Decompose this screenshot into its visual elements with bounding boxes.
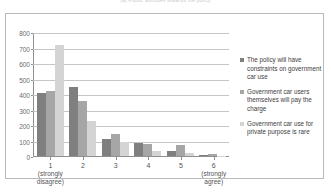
legend-item[interactable]: Government car users themselves will pay… — [240, 88, 330, 114]
y-axis-tick-label: 0 — [26, 154, 30, 161]
x-axis-tick-mark — [148, 157, 149, 160]
bar-group — [34, 33, 67, 156]
bar[interactable] — [167, 151, 176, 156]
y-axis-tick-label: 300 — [19, 107, 30, 114]
bar[interactable] — [208, 154, 217, 156]
legend-swatch-icon — [240, 122, 244, 126]
x-axis-tick-sublabel: (strongly — [34, 170, 67, 178]
bar[interactable] — [102, 139, 111, 156]
x-axis-tick-labels: 1(stronglydisagree)23456(stronglyagree) — [34, 157, 230, 186]
x-axis-tick-number: 1 — [34, 161, 67, 170]
x-axis-tick-number: 6 — [197, 161, 230, 170]
y-axis-tick-label: 800 — [19, 30, 30, 37]
chart-frame: 0100200300400500600700800 1(stronglydisa… — [5, 13, 324, 179]
x-axis-tick-mark — [50, 157, 51, 160]
legend-item-label: Government car use for private purpose i… — [247, 120, 330, 137]
x-axis-tick-sublabel: agree) — [197, 178, 230, 186]
x-axis-tick: 3 — [99, 157, 132, 186]
legend-swatch-icon — [240, 90, 244, 94]
bar[interactable] — [87, 121, 96, 156]
bar[interactable] — [134, 143, 143, 156]
legend-item[interactable]: The policy will have constraints on gove… — [240, 56, 330, 82]
x-axis-tick: 5 — [165, 157, 198, 186]
y-axis-tick-label: 500 — [19, 76, 30, 83]
x-axis-tick-mark — [83, 157, 84, 160]
chart-legend: The policy will have constraints on gove… — [240, 56, 330, 143]
bar[interactable] — [37, 93, 46, 156]
x-axis-tick-mark — [116, 157, 117, 160]
y-axis-tick-label: 700 — [19, 45, 30, 52]
bar[interactable] — [55, 45, 64, 156]
bar[interactable] — [176, 145, 185, 156]
chart-title: (a) Public attitudes towards the policy — [0, 0, 331, 4]
plot-area: 0100200300400500600700800 — [33, 33, 229, 157]
y-axis-tick-label: 100 — [19, 138, 30, 145]
y-axis-tick-label: 400 — [19, 92, 30, 99]
x-axis-tick: 1(stronglydisagree) — [34, 157, 67, 186]
y-axis-tick-label: 200 — [19, 123, 30, 130]
bar-group — [99, 33, 132, 156]
y-axis-tick-mark — [31, 64, 33, 65]
x-axis-tick-number: 4 — [132, 161, 165, 170]
bar[interactable] — [69, 87, 78, 156]
bar[interactable] — [152, 151, 161, 156]
x-axis-tick-number: 3 — [99, 161, 132, 170]
legend-item-label: Government car users themselves will pay… — [247, 88, 330, 114]
y-axis-tick-mark — [31, 111, 33, 112]
x-axis-tick-mark — [181, 157, 182, 160]
legend-item-label: The policy will have constraints on gove… — [247, 56, 330, 82]
figure-container: (a) Public attitudes towards the policy … — [0, 0, 331, 193]
bar-groups — [34, 33, 229, 156]
y-axis-tick-label: 600 — [19, 61, 30, 68]
x-axis-tick-sublabel: (strongly — [197, 170, 230, 178]
bar[interactable] — [120, 142, 129, 156]
y-axis-tick-mark — [31, 95, 33, 96]
x-axis-tick: 6(stronglyagree) — [197, 157, 230, 186]
x-axis-tick: 2 — [67, 157, 100, 186]
bar[interactable] — [111, 134, 120, 156]
legend-item[interactable]: Government car use for private purpose i… — [240, 120, 330, 137]
y-axis-tick-mark — [31, 33, 33, 34]
y-axis-tick-mark — [31, 157, 33, 158]
bar[interactable] — [143, 144, 152, 156]
bar[interactable] — [46, 91, 55, 156]
bar[interactable] — [199, 155, 208, 156]
x-axis-tick-number: 5 — [165, 161, 198, 170]
bar-group — [132, 33, 165, 156]
bar[interactable] — [185, 153, 194, 156]
x-axis-tick-number: 2 — [67, 161, 100, 170]
bar-group — [67, 33, 100, 156]
legend-swatch-icon — [240, 58, 244, 62]
x-axis-tick: 4 — [132, 157, 165, 186]
x-axis-tick-mark — [214, 157, 215, 160]
bar[interactable] — [78, 101, 87, 156]
y-axis-tick-mark — [31, 80, 33, 81]
y-axis-tick-mark — [31, 142, 33, 143]
y-axis-tick-mark — [31, 126, 33, 127]
bar-group — [164, 33, 197, 156]
bar-group — [197, 33, 230, 156]
x-axis-tick-sublabel: disagree) — [34, 178, 67, 186]
y-axis-tick-mark — [31, 49, 33, 50]
